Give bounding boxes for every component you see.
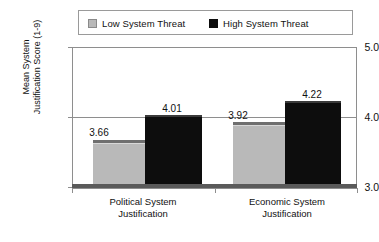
x-category-label-political: Political System Justification xyxy=(78,196,208,220)
chart-legend: Low System Threat High System Threat xyxy=(78,10,353,35)
x-tick-mark-left xyxy=(72,188,73,193)
x-tick-mark-right xyxy=(357,188,358,193)
legend-entry-high-system-threat: High System Threat xyxy=(209,15,309,31)
bar-chart-figure: Low System Threat High System Threat Mea… xyxy=(0,0,379,242)
bar-economic-low xyxy=(232,122,285,186)
bar-value-political-low: 3.66 xyxy=(79,127,119,138)
high-threat-swatch-icon xyxy=(209,19,218,28)
bar-value-economic-low: 3.92 xyxy=(218,110,258,121)
legend-label-high: High System Threat xyxy=(223,18,309,29)
legend-entry-low-system-threat: Low System Threat xyxy=(88,15,185,31)
bar-political-low xyxy=(92,140,145,186)
x-category-label-economic: Economic System Justification xyxy=(222,196,352,220)
plot-area xyxy=(72,47,357,187)
bar-value-economic-high: 4.22 xyxy=(292,89,332,100)
bar-political-high xyxy=(145,115,202,186)
low-threat-swatch-icon xyxy=(88,19,97,28)
bar-economic-high xyxy=(285,101,341,186)
x-tick-mark-middle xyxy=(215,188,216,193)
y-axis-title-container: Mean System Justification Score (1-9) xyxy=(14,0,50,137)
y-axis-title: Mean System Justification Score (1-9) xyxy=(21,20,43,115)
bar-value-political-high: 4.01 xyxy=(152,103,192,114)
legend-label-low: Low System Threat xyxy=(102,18,185,29)
